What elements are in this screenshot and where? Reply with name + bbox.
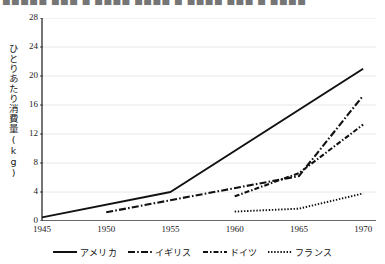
legend-swatch-dash-dot-short-icon <box>203 248 227 256</box>
plot-svg <box>40 18 376 221</box>
series-line-イギリス <box>106 96 363 213</box>
y-tick-label: 12 <box>16 128 38 138</box>
y-tick-label: 8 <box>16 157 38 167</box>
y-tick-label: 28 <box>16 12 38 22</box>
clipped-header-strip: ■■■■■ ■■■ ■ ■■■■ ■■■■ ■ ■■■■ ■■■ ■ ■■■■ <box>0 0 385 9</box>
legend-item-アメリカ[interactable]: アメリカ <box>53 246 117 259</box>
x-tick-label: 1955 <box>161 224 179 234</box>
y-axis-tick-labels: 0481216202428 <box>12 0 38 240</box>
legend-label: アメリカ <box>80 246 117 259</box>
legend-item-ドイツ[interactable]: ドイツ <box>203 246 258 259</box>
y-tick-label: 4 <box>16 186 38 196</box>
x-axis-tick-labels: 194519501955196019651970 <box>0 224 385 238</box>
legend-swatch-dash-dot-icon <box>128 248 152 256</box>
x-tick-label: 1950 <box>97 224 115 234</box>
series-line-ドイツ <box>235 125 363 197</box>
legend-label: ドイツ <box>230 246 258 259</box>
clipped-header-text: ■■■■■ ■■■ ■ ■■■■ ■■■■ ■ ■■■■ ■■■ ■ ■■■■ <box>2 0 306 6</box>
chart-legend: アメリカイギリスドイツフランス <box>0 243 385 261</box>
plot-area <box>40 18 376 221</box>
y-tick-label: 16 <box>16 99 38 109</box>
legend-swatch-dotted-icon <box>268 248 292 256</box>
x-tick-label: 1945 <box>33 224 51 234</box>
series-line-フランス <box>235 193 363 211</box>
chart-root: ■■■■■ ■■■ ■ ■■■■ ■■■■ ■ ■■■■ ■■■ ■ ■■■■ … <box>0 0 385 264</box>
legend-swatch-solid-icon <box>53 248 77 256</box>
legend-label: フランス <box>295 246 332 259</box>
x-tick-label: 1960 <box>226 224 244 234</box>
legend-label: イギリス <box>155 246 192 259</box>
y-tick-label: 20 <box>16 70 38 80</box>
x-tick-label: 1970 <box>354 224 372 234</box>
legend-item-イギリス[interactable]: イギリス <box>128 246 192 259</box>
y-tick-label: 24 <box>16 41 38 51</box>
legend-item-フランス[interactable]: フランス <box>268 246 332 259</box>
x-tick-label: 1965 <box>290 224 308 234</box>
